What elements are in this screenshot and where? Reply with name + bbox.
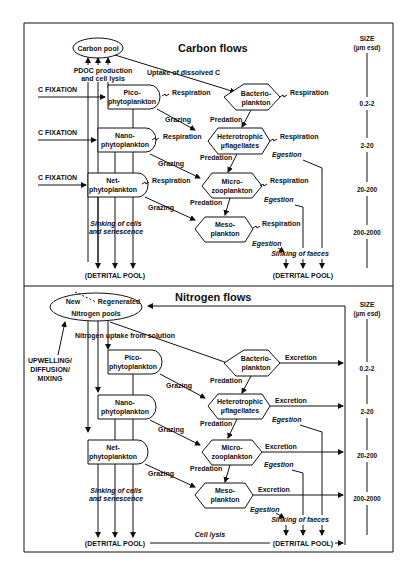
bact-label-2: plankton [241,99,270,107]
microzooplankton-node [202,173,262,198]
n-bact-predation: Predation [210,377,242,384]
carbon-flows-panel: Carbon flows Carbon pool PDOC production… [38,35,381,280]
n-bact-label-2: plankton [241,364,270,372]
n-hflag-label-1: Heterotrophic [217,398,263,406]
bact-label-1: Bacterio- [241,90,272,97]
bact-respiration: Respiration [290,89,329,97]
meso-label-1: Meso- [215,221,236,228]
hflag-egestion: Egestion [272,151,302,159]
size-class-1: 2-20 [360,142,373,149]
upwelling-3: MIXING [38,375,63,382]
size-class-3: 200-2000 [353,229,381,236]
meso-egestion: Egestion [252,240,282,248]
plankton-flow-diagram: Carbon flows Carbon pool PDOC production… [0,0,411,572]
n-meso-egestion: Egestion [250,506,280,514]
net-respiration: Respiration [152,177,191,185]
heterotrophic-flagellates-node [208,128,270,154]
micro-egestion: Egestion [264,196,294,204]
nitrogen-uptake-label: Nitrogen uptake from solution [75,332,175,340]
uptake-dissolved-c-label: Uptake of dissolved C [147,69,220,77]
n-micro-label-2: zooplankton [211,453,252,461]
n-sinking-cells-1: Sinking of cells [90,487,141,495]
cell-lysis-label: Cell lysis [195,531,225,539]
pico-respiration: Respiration [172,89,211,97]
n-sinking-cells-2: and senescence [89,495,143,502]
figure-frame [24,23,393,552]
pool-new-label: New [66,298,81,305]
n-hflag-egestion: Egestion [272,416,302,424]
n-size-class-1: 2-20 [360,408,373,415]
pool-label: Nitrogen pools [71,310,120,318]
n-pico-grazing: Grazing [166,382,192,390]
nano-respiration: Respiration [163,133,202,141]
n-pico-label-2: phytoplankton [109,363,157,371]
n-sinking-faeces: Sinking of faeces [271,516,329,524]
n-micro-egestion: Egestion [264,461,294,469]
n-detrital-pool-left: (DETRITAL POOL) [85,540,145,548]
n-size-unit: (µm esd) [354,310,381,318]
carbon-title: Carbon flows [178,42,248,54]
net-label-1: Net- [106,177,120,184]
bact-predation: Predation [210,116,242,123]
n-bact-excretion: Excretion [285,354,317,361]
n-net-label-2: phytoplankton [89,453,137,461]
n-nano-label-1: Nano- [115,399,136,406]
n-micro-predation: Predation [190,465,222,472]
sinking-cells-1: Sinking of cells [90,220,141,228]
n-size-class-3: 200-2000 [353,495,381,502]
n-hflag-label-2: µflagellates [221,407,259,415]
hflag-label-2: µflagellates [221,142,259,150]
bacterioplankton-node [224,84,280,110]
pico-label-2: phytoplankton [108,98,156,106]
upwelling-1: UPWELLING/ [28,357,72,364]
meso-respiration: Respiration [262,220,301,228]
n-meso-label-1: Meso- [215,487,236,494]
n-pico-label-1: Pico- [124,354,142,361]
n-meso-excretion: Excretion [258,486,290,493]
net-grazing: Grazing [148,204,174,212]
micro-predation: Predation [190,199,222,206]
nano-label-1: Nano- [115,132,136,139]
pico-label-1: Pico- [123,89,141,96]
n-nano-grazing: Grazing [158,426,184,434]
carbon-detrital-pool-left: (DETRITAL POOL) [85,272,145,280]
nitrogen-flows-panel: Nitrogen flows New Regenerated Nitrogen … [28,291,381,548]
pdoc-label-2: and cell lysis [81,75,125,83]
micro-respiration: Respiration [270,177,309,185]
n-bacterioplankton-node [224,350,280,376]
carbon-detrital-pool-right: (DETRITAL POOL) [273,272,333,280]
nano-label-2: phytoplankton [101,141,149,149]
size-class-2: 20-200 [357,186,378,193]
n-size-class-0: 0.2-2 [360,365,375,372]
hflag-label-1: Heterotrophic [217,133,263,141]
nitrogen-title: Nitrogen flows [175,291,251,303]
n-nano-label-2: phytoplankton [101,408,149,416]
n-size-class-2: 20-200 [357,452,378,459]
n-net-grazing: Grazing [148,470,174,478]
n-hflag-predation: Predation [200,420,232,427]
upwelling-2: DIFFUSION/ [30,366,70,373]
n-hflag-excretion: Excretion [275,397,307,404]
size-class-0: 0.2-2 [360,100,375,107]
c-fixation-label-2: C FIXATION [38,129,77,136]
nano-grazing: Grazing [158,160,184,168]
hflag-respiration: Respiration [280,133,319,141]
pico-grazing: Grazing [165,116,191,124]
micro-label-2: zooplankton [211,187,252,195]
n-size-header: SIZE [360,301,375,308]
pool-regen-label: Regenerated [98,298,140,306]
size-header: SIZE [360,35,375,42]
c-fixation-label-3: C FIXATION [38,174,77,181]
n-meso-label-2: plankton [210,496,239,504]
n-micro-excretion: Excretion [265,443,297,450]
n-bact-label-1: Bacterio- [241,355,272,362]
micro-label-1: Micro- [222,178,244,185]
net-label-2: phytoplankton [89,186,137,194]
sinking-faeces: Sinking of faeces [271,250,329,258]
sinking-cells-2: and senescence [89,228,143,235]
n-detrital-pool-right: (DETRITAL POOL) [273,540,333,548]
meso-label-2: plankton [210,230,239,238]
n-net-label-1: Net- [106,444,120,451]
c-fixation-label-1: C FIXATION [38,86,77,93]
hflag-predation: Predation [200,154,232,161]
